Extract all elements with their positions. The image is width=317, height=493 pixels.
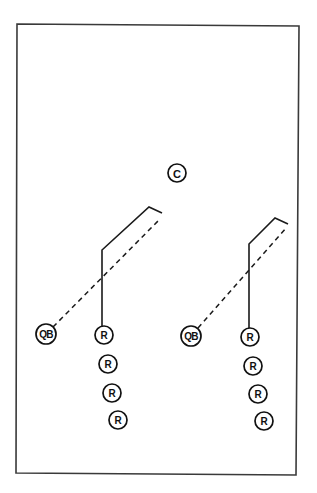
player-label: R — [260, 416, 268, 427]
player-label: QB — [184, 331, 198, 342]
field-frame — [16, 24, 299, 475]
route-right-line — [249, 218, 288, 328]
player-label: C — [173, 168, 181, 180]
player-qb-left: QB — [36, 324, 56, 344]
player-label: R — [100, 330, 108, 341]
player-label: R — [108, 388, 116, 399]
player-label: R — [246, 332, 254, 343]
route-left-line — [102, 207, 162, 326]
player-label: R — [254, 389, 262, 400]
player-receiver-right-3: R — [249, 385, 267, 403]
player-label: R — [249, 361, 257, 372]
player-receiver-right-4: R — [255, 412, 273, 430]
routes-layer — [102, 207, 288, 328]
player-receiver-left-3: R — [103, 384, 121, 402]
players-layer: CQBRRRRQBRRRR — [36, 164, 273, 430]
player-receiver-right-1: R — [241, 328, 259, 346]
player-label: R — [104, 359, 112, 370]
player-receiver-left-4: R — [109, 411, 127, 429]
pass-left-dashed-line — [53, 220, 159, 327]
player-label: R — [114, 415, 122, 426]
player-qb-right: QB — [181, 326, 201, 346]
player-receiver-right-2: R — [244, 357, 262, 375]
player-label: QB — [39, 329, 53, 340]
pass-lines-layer — [53, 220, 286, 328]
play-diagram: CQBRRRRQBRRRR — [0, 0, 317, 493]
player-center: C — [168, 164, 186, 182]
pass-right-dashed-line — [198, 228, 286, 328]
player-receiver-left-1: R — [95, 326, 113, 344]
player-receiver-left-2: R — [99, 355, 117, 373]
